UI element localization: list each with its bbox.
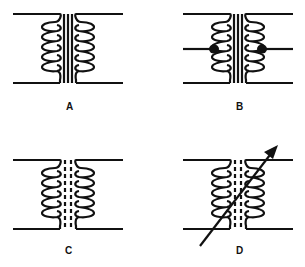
- secondary-winding: [75, 14, 94, 83]
- label-a: A: [66, 101, 73, 112]
- secondary-winding: [245, 160, 264, 229]
- transformer-diagram: A B C: [0, 0, 305, 267]
- primary-winding: [42, 14, 61, 83]
- secondary-winding: [75, 160, 94, 229]
- label-c: C: [65, 245, 72, 256]
- center-tap-dot-icon: [257, 45, 267, 54]
- transformer-symbol-d: D: [183, 145, 293, 256]
- label-b: B: [236, 101, 243, 112]
- transformer-symbol-c: C: [13, 160, 123, 256]
- label-d: D: [236, 245, 243, 256]
- primary-winding: [42, 160, 61, 229]
- transformer-symbol-b: B: [183, 14, 293, 112]
- transformer-symbol-a: A: [13, 14, 123, 112]
- center-tap-dot-icon: [209, 45, 219, 54]
